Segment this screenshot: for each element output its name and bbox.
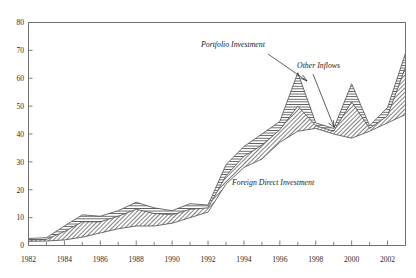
y-tick-label: 0: [20, 241, 24, 250]
chart-container: 01020304050607080 1982198419861988199019…: [0, 0, 416, 278]
plot-area: [29, 53, 406, 245]
y-tick-label: 50: [16, 102, 24, 111]
stacked-area-chart: 01020304050607080 1982198419861988199019…: [0, 0, 416, 278]
x-tick-label: 1998: [308, 255, 323, 264]
y-tick-label: 40: [16, 130, 24, 139]
x-tick-label: 1996: [272, 255, 287, 264]
x-tick-label: 2002: [380, 255, 395, 264]
annotation-portfolio-investment: Portfolio Investment: [200, 40, 266, 49]
y-axis-tick-labels: 01020304050607080: [16, 18, 24, 250]
annotation-other-inflows: Other Inflows: [297, 61, 340, 70]
x-tick-label: 1988: [129, 255, 144, 264]
x-tick-label: 1992: [200, 255, 215, 264]
leader-line-other-inflows-arrow: [329, 120, 334, 127]
y-tick-label: 60: [16, 74, 24, 83]
leader-line-other-inflows: [313, 74, 334, 127]
x-tick-label: 1982: [21, 255, 36, 264]
y-tick-label: 70: [16, 46, 24, 55]
x-tick-label: 1984: [57, 255, 72, 264]
x-tick-label: 2000: [344, 255, 359, 264]
x-tick-label: 1990: [165, 255, 180, 264]
annotation-foreign-direct-investment: Foreign Direct Investment: [231, 178, 315, 187]
y-tick-label: 80: [16, 18, 24, 27]
leader-line-portfolio-arrow: [301, 75, 308, 81]
x-tick-label: 1994: [236, 255, 251, 264]
x-tick-label: 1986: [93, 255, 108, 264]
series-areas: [29, 53, 406, 245]
x-axis-tick-labels: 1982198419861988199019921994199619982000…: [21, 255, 395, 264]
y-axis-ticks: [29, 23, 33, 246]
y-tick-label: 10: [16, 213, 24, 222]
y-tick-label: 20: [16, 186, 24, 195]
y-tick-label: 30: [16, 158, 24, 167]
